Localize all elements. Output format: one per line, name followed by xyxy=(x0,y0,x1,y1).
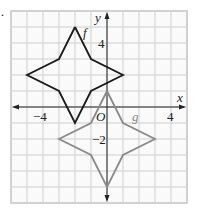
problem-marker: . xyxy=(1,5,4,20)
y-tick-label: 4 xyxy=(98,36,105,51)
origin-label: O xyxy=(96,109,106,124)
x-tick-label: 4 xyxy=(167,109,174,124)
coordinate-plane: −444−2Oxyfg xyxy=(0,0,197,212)
series-label-g: g xyxy=(132,109,139,124)
y-tick-label: −2 xyxy=(92,132,106,147)
x-tick-label: −4 xyxy=(33,109,47,124)
y-axis-label: y xyxy=(93,10,101,25)
x-axis-label: x xyxy=(176,90,183,105)
